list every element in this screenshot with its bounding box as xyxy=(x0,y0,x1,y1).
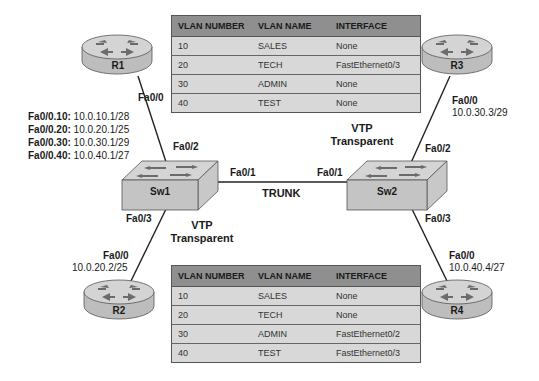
col-interface: INTERFACE xyxy=(330,266,421,287)
sw2-vtp-mode: VTP Transparent xyxy=(322,122,402,148)
r3-ip-label: 10.0.30.3/29 xyxy=(452,107,508,118)
cell: None xyxy=(330,37,421,56)
cell: TEST xyxy=(252,94,330,113)
cell: SALES xyxy=(252,37,330,56)
r1-name: R1 xyxy=(98,60,138,71)
sw2-port-fa02: Fa0/2 xyxy=(425,143,451,154)
cell: FastEthernet0/3 xyxy=(330,344,421,363)
sw2-port-fa03: Fa0/3 xyxy=(425,213,451,224)
table-row: 20 TECH None xyxy=(172,306,421,325)
link-r1-sw1 xyxy=(138,76,167,165)
sw1-vtp-mode: VTP Transparent xyxy=(162,219,242,245)
table-row: 10 SALES None xyxy=(172,287,421,306)
router-r1[interactable] xyxy=(80,33,155,79)
r1-subinterface-list: Fa0/0.10: 10.0.10.1/28 Fa0/0.20: 10.0.20… xyxy=(28,110,129,162)
col-vlan-name: VLAN NAME xyxy=(252,16,330,37)
subinterface-item: Fa0/0.30: 10.0.30.1/29 xyxy=(28,136,129,149)
table-row: 20 TECH FastEthernet0/3 xyxy=(172,56,421,75)
cell: FastEthernet0/3 xyxy=(330,56,421,75)
r2-port-label: Fa0/0 xyxy=(103,250,129,261)
r3-name: R3 xyxy=(437,60,477,71)
router-r2[interactable] xyxy=(82,278,157,324)
cell: SALES xyxy=(252,287,330,306)
table-row: 40 TEST None xyxy=(172,94,421,113)
sw2-vlan-table: VLAN NUMBER VLAN NAME INTERFACE 10 SALES… xyxy=(171,265,421,363)
col-interface: INTERFACE xyxy=(330,16,421,37)
cell: TECH xyxy=(252,306,330,325)
table-row: 10 SALES None xyxy=(172,37,421,56)
cell: None xyxy=(330,306,421,325)
cell: None xyxy=(330,94,421,113)
sw1-port-fa01: Fa0/1 xyxy=(230,167,256,178)
cell: 10 xyxy=(172,37,253,56)
col-vlan-name: VLAN NAME xyxy=(252,266,330,287)
cell: 10 xyxy=(172,287,253,306)
router-r3[interactable] xyxy=(420,33,495,79)
r4-port-label: Fa0/0 xyxy=(449,250,475,261)
table-row: 30 ADMIN FastEthernet0/2 xyxy=(172,325,421,344)
table-header-row: VLAN NUMBER VLAN NAME INTERFACE xyxy=(172,16,421,37)
cell: 20 xyxy=(172,306,253,325)
cell: ADMIN xyxy=(252,325,330,344)
sw1-name: Sw1 xyxy=(122,186,198,197)
r2-ip-label: 10.0.20.2/25 xyxy=(72,262,128,273)
col-vlan-number: VLAN NUMBER xyxy=(172,16,253,37)
cell: ADMIN xyxy=(252,75,330,94)
sw2-name: Sw2 xyxy=(347,186,427,197)
r4-ip-label: 10.0.40.4/27 xyxy=(449,262,505,273)
col-vlan-number: VLAN NUMBER xyxy=(172,266,253,287)
cell: TECH xyxy=(252,56,330,75)
table-row: 40 TEST FastEthernet0/3 xyxy=(172,344,421,363)
subinterface-item: Fa0/0.10: 10.0.10.1/28 xyxy=(28,110,129,123)
cell: None xyxy=(330,287,421,306)
cell: TEST xyxy=(252,344,330,363)
cell: 30 xyxy=(172,75,253,94)
cell: FastEthernet0/2 xyxy=(330,325,421,344)
r2-name: R2 xyxy=(99,305,139,316)
r4-name: R4 xyxy=(437,305,477,316)
sw1-port-fa02: Fa0/2 xyxy=(173,141,199,152)
switch-sw2[interactable] xyxy=(345,155,450,213)
sw2-port-fa01: Fa0/1 xyxy=(317,167,343,178)
trunk-label: TRUNK xyxy=(262,187,301,199)
r1-port-label: Fa0/0 xyxy=(138,92,164,103)
cell: 30 xyxy=(172,325,253,344)
subinterface-item: Fa0/0.40: 10.0.40.1/27 xyxy=(28,149,129,162)
table-header-row: VLAN NUMBER VLAN NAME INTERFACE xyxy=(172,266,421,287)
cell: None xyxy=(330,75,421,94)
cell: 20 xyxy=(172,56,253,75)
sw1-port-fa03: Fa0/3 xyxy=(126,213,152,224)
sw1-vlan-table: VLAN NUMBER VLAN NAME INTERFACE 10 SALES… xyxy=(171,15,421,113)
table-row: 30 ADMIN None xyxy=(172,75,421,94)
r3-port-label: Fa0/0 xyxy=(452,95,478,106)
cell: 40 xyxy=(172,94,253,113)
router-r4[interactable] xyxy=(420,278,495,324)
switch-sw1[interactable] xyxy=(120,155,220,213)
subinterface-item: Fa0/0.20: 10.0.20.1/25 xyxy=(28,123,129,136)
cell: 40 xyxy=(172,344,253,363)
